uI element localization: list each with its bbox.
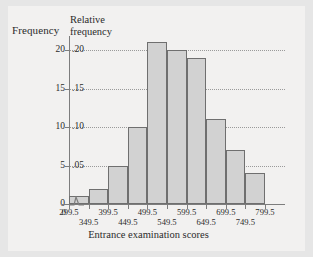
x-tick-label: 649.5 xyxy=(197,217,216,227)
histogram-bar xyxy=(167,50,187,204)
histogram-bar xyxy=(245,173,265,204)
x-tick-label: 449.5 xyxy=(118,217,137,227)
histogram-bar xyxy=(226,150,246,204)
x-tick-mark xyxy=(245,204,246,209)
x-tick-label: 499.5 xyxy=(138,207,157,217)
x-tick-label: 799.5 xyxy=(255,207,274,217)
x-tick-mark xyxy=(128,204,129,209)
x-axis-title: Entrance examination scores xyxy=(0,229,297,240)
x-tick-label: 299.5 xyxy=(59,207,78,217)
x-tick-label: 599.5 xyxy=(177,207,196,217)
y-tick-label-frequency: 10 xyxy=(56,121,66,131)
y-axis-title-frequency: Frequency xyxy=(12,24,59,36)
y-tick-label-frequency: 5 xyxy=(60,160,65,170)
histogram-bar xyxy=(187,58,207,204)
plot-area: Frequency Relative frequency 20151050 .2… xyxy=(0,0,297,245)
y-tick-label-frequency: 15 xyxy=(56,83,66,93)
x-tick-label: 349.5 xyxy=(79,217,98,227)
x-axis-line xyxy=(62,204,285,205)
axis-break-icon xyxy=(70,196,84,206)
x-tick-label: 749.5 xyxy=(236,217,255,227)
histogram-bar xyxy=(108,166,128,205)
histogram-bar xyxy=(206,119,226,204)
histogram-bar xyxy=(147,42,167,204)
histogram-bar xyxy=(89,189,109,204)
x-tick-label: 699.5 xyxy=(216,207,235,217)
x-tick-mark xyxy=(167,204,168,209)
x-tick-label: 549.5 xyxy=(157,217,176,227)
x-tick-mark xyxy=(89,204,90,209)
relative-frequency-title-line1: Relative xyxy=(70,14,105,25)
x-tick-mark xyxy=(206,204,207,209)
histogram-bars xyxy=(69,36,285,204)
x-tick-label: 399.5 xyxy=(99,207,118,217)
histogram-bar xyxy=(128,127,148,204)
y-axis-title-relative-frequency: Relative frequency xyxy=(70,14,112,37)
histogram-figure: Frequency Relative frequency 20151050 .2… xyxy=(0,0,313,257)
y-tick-label-frequency: 20 xyxy=(56,44,66,54)
